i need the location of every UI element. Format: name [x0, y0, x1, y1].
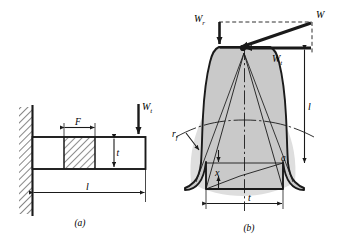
panel-b: Wr W Wt l rf x a	[172, 9, 326, 234]
length-label-l: l	[86, 181, 89, 192]
parabola-offset-label-x: x	[214, 167, 220, 178]
beam-critical-section	[64, 137, 95, 169]
radial-component-label-wr: Wr	[194, 13, 205, 27]
pressure-angle-label-a: a	[281, 153, 286, 163]
dimension-length	[34, 169, 146, 202]
tooth-thickness-label-t: t	[248, 192, 251, 203]
panel-a: Wt F t l (a)	[19, 101, 153, 229]
engineering-figure-svg: Wt F t l (a)	[0, 0, 352, 241]
moment-arm-label-l: l	[308, 101, 311, 112]
caption-b: (b)	[243, 223, 254, 234]
load-label-wt: Wt	[142, 101, 153, 115]
thickness-label-t: t	[117, 148, 120, 158]
caption-a: (a)	[74, 218, 85, 229]
figure-root: Wt F t l (a)	[0, 0, 352, 241]
fillet-radius-label-rf: rf	[172, 129, 179, 142]
fixed-wall	[19, 105, 33, 216]
face-width-label-f: F	[74, 117, 81, 127]
resultant-load-label-w: W	[316, 9, 326, 20]
